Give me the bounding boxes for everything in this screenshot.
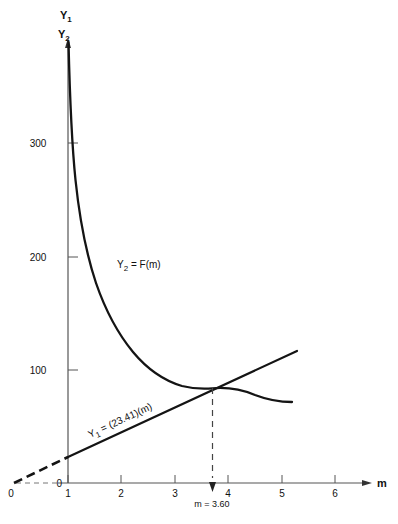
x-tick-label: 4 <box>225 488 231 499</box>
x-axis <box>68 480 372 486</box>
intersection-annotation: m = 3.60 <box>194 499 229 509</box>
y1-axis-title: Y1 <box>60 9 72 24</box>
y2-axis-title: Y2 <box>58 28 70 43</box>
y-tick-group: 300 200 100 <box>30 138 78 376</box>
chart-figure: Y1 Y2 m 300 200 100 0 1 2 3 4 5 6 0 <box>0 0 398 524</box>
x-tick-label: 1 <box>65 488 71 499</box>
y2-series-label: Y2 = F(m) <box>117 259 161 273</box>
intersection-arrow-icon <box>209 482 216 492</box>
x-tick-label: 6 <box>332 488 338 499</box>
x-tick-label: 3 <box>172 488 178 499</box>
x-axis-title: m <box>377 477 387 489</box>
y1-line-series <box>68 351 297 457</box>
x-tick-group: 1 2 3 4 5 6 <box>65 475 338 499</box>
y-tick-label: 100 <box>30 365 47 376</box>
y2-curve-series <box>69 42 293 402</box>
y-tick-label: 200 <box>30 252 47 263</box>
x-axis-arrow-icon <box>362 480 372 486</box>
y-zero-label: 0 <box>56 478 62 489</box>
x-tick-label: 2 <box>118 488 124 499</box>
x-tick-label: 5 <box>279 488 285 499</box>
origin-label: 0 <box>8 488 14 499</box>
y-tick-label: 300 <box>30 138 47 149</box>
